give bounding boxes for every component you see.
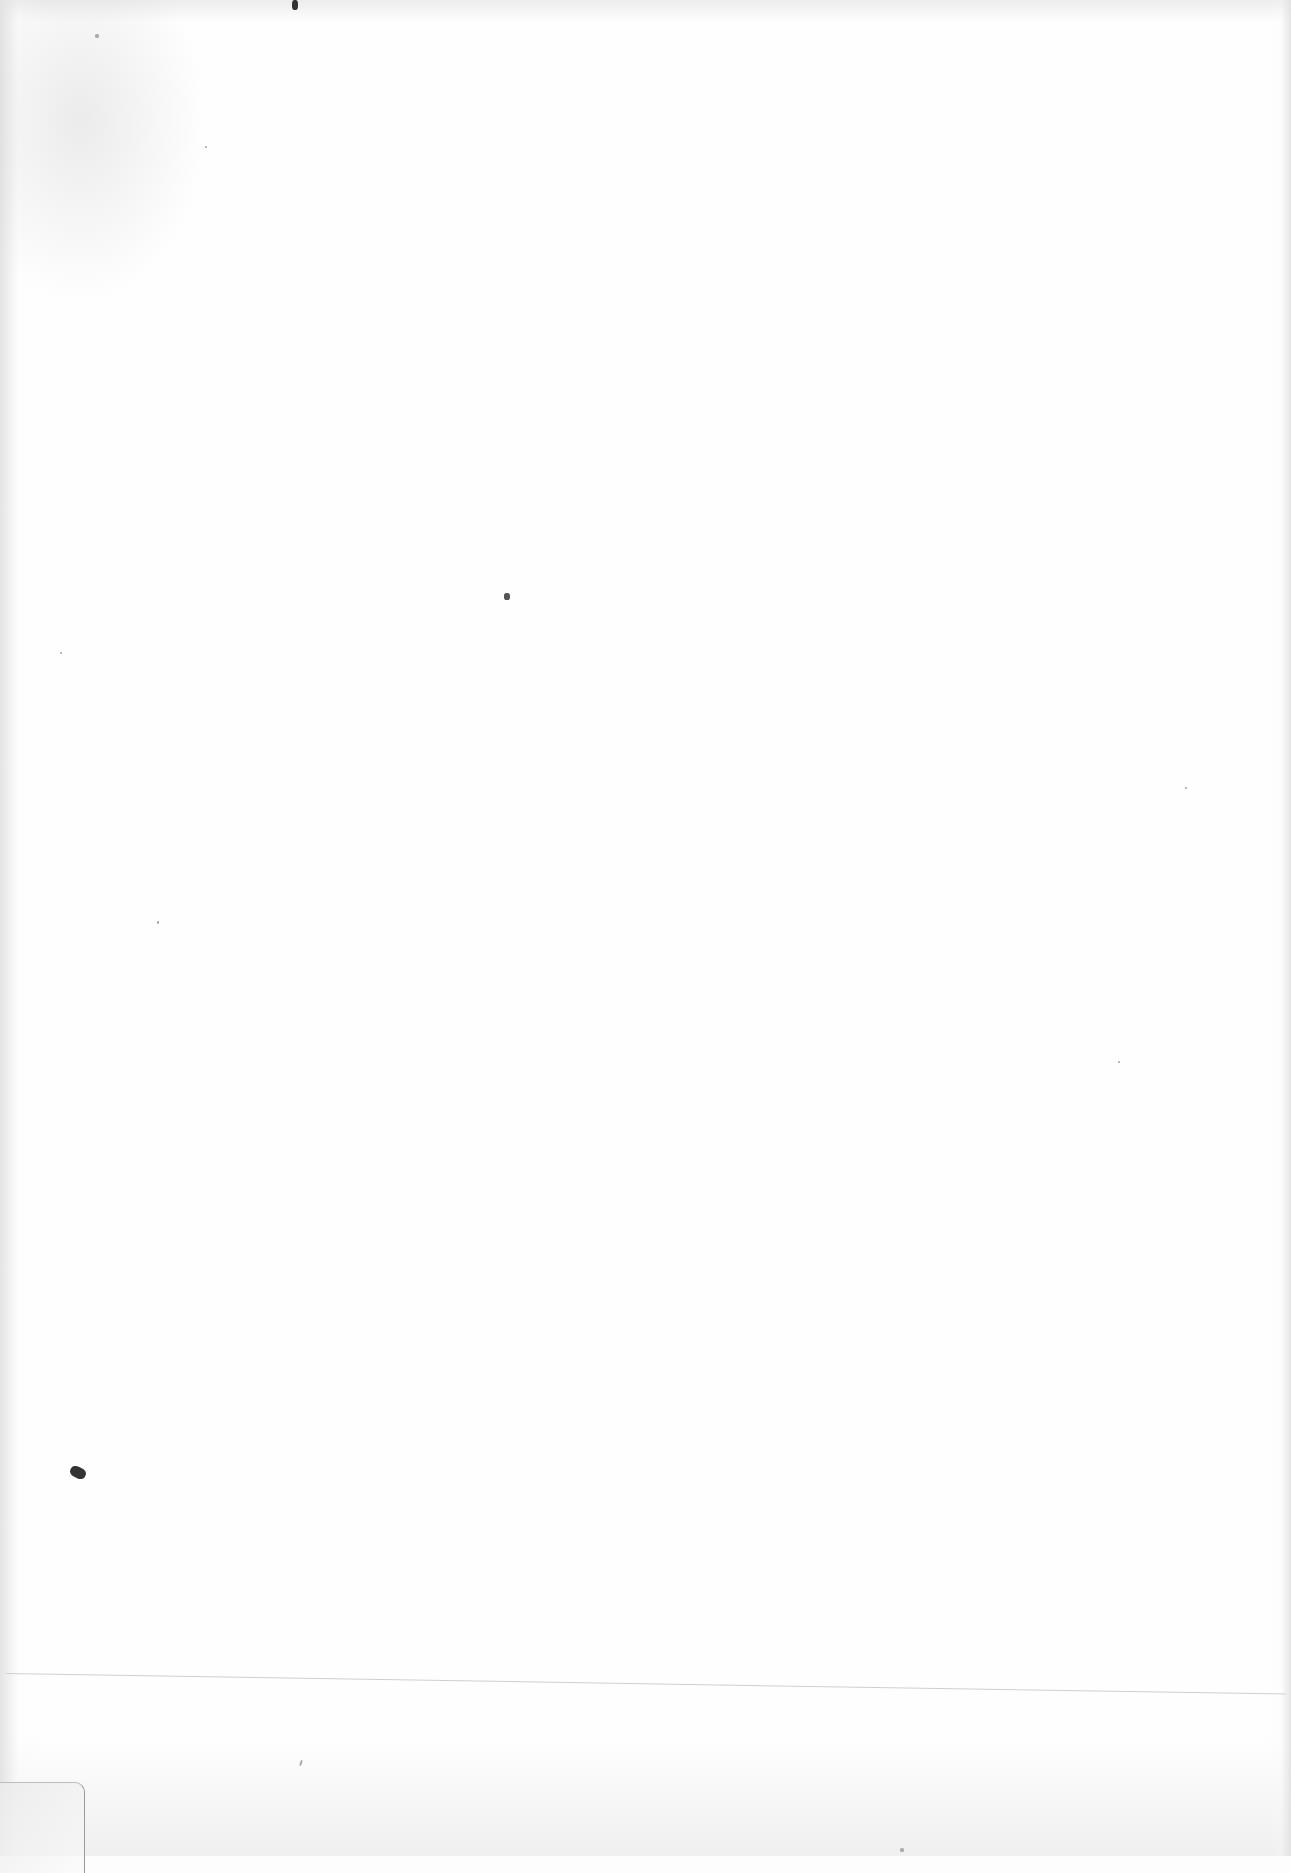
ink-speck [1118,1061,1120,1063]
ink-speck [205,146,207,148]
ink-speck [900,1848,904,1852]
ink-speck [95,34,99,38]
ink-speck [60,652,62,654]
ink-speck [1185,787,1187,789]
ink-speck [299,1760,303,1766]
folded-corner [0,1782,85,1873]
ink-speck [504,593,510,600]
horizontal-rule [6,1673,1286,1695]
ink-speck [292,0,298,10]
ink-speck [157,921,159,924]
ink-speck [68,1464,87,1481]
